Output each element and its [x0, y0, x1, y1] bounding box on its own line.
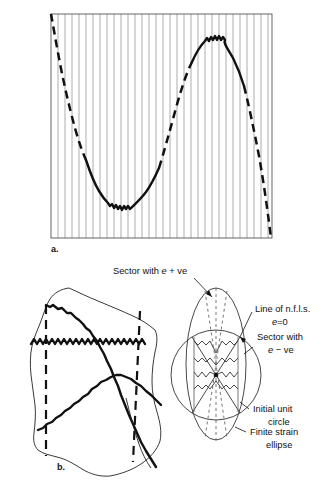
fold-limb-left-dashed [51, 14, 86, 160]
label-sector-negative-value: e − ve [268, 345, 294, 355]
diagram-labels: Sector with e + ve Line of n.f.l.s. e=0 … [113, 266, 310, 450]
outcrop-fracture-line [126, 398, 151, 468]
label-sector-positive: Sector with e + ve [113, 266, 187, 276]
fold-hinge-crest-crenulated [192, 36, 244, 86]
panel-b-letter: b. [57, 462, 65, 472]
outcrop-vein-lower-right [38, 375, 161, 430]
panel-b: b. [30, 288, 161, 476]
outcrop-outline [30, 288, 160, 476]
figure-root: a. b. [0, 0, 330, 498]
outcrop-crenulated-vein [31, 339, 145, 344]
fold-limb-right-dashed [244, 86, 271, 238]
panel-a-vertical-rules [58, 14, 268, 238]
strain-ellipse-diagram [171, 288, 261, 440]
crenulation-mark-upper-right [216, 341, 238, 353]
label-line-nfls: Line of n.f.l.s. [255, 304, 310, 314]
panel-a: a. [51, 14, 272, 254]
panel-a-box [51, 14, 272, 238]
label-initial-unit-circle-line2: circle [268, 417, 290, 427]
panel-a-letter: a. [51, 244, 59, 254]
crenulation-mark-upper-left [194, 341, 216, 353]
crenulation-mark-centre-right [216, 372, 238, 377]
label-line-nfls-post: =0 [277, 317, 288, 327]
label-sector-negative-post: − ve [273, 345, 293, 355]
geology-figure: a. b. [0, 0, 330, 498]
crenulation-mark-centre-left [194, 372, 216, 377]
crenulation-mark-mid-left [194, 358, 216, 365]
leader-finite-strain-ellipse [235, 427, 246, 432]
label-sector-positive-post: + ve [167, 266, 187, 276]
strain-centre-point [214, 373, 218, 377]
label-initial-unit-circle-line1: Initial unit [253, 404, 293, 414]
label-finite-strain-ellipse-line2: ellipse [266, 440, 292, 450]
crenulation-mark-mid-right [216, 358, 238, 365]
label-line-nfls-value: e=0 [272, 317, 288, 327]
label-finite-strain-ellipse-line1: Finite strain [250, 427, 298, 437]
label-sector-positive-pre: Sector with [113, 266, 162, 276]
fold-limb-middle-dashed [159, 62, 192, 168]
fold-hinge-trough-crenulated [86, 160, 159, 210]
label-sector-negative: Sector with [257, 332, 303, 342]
